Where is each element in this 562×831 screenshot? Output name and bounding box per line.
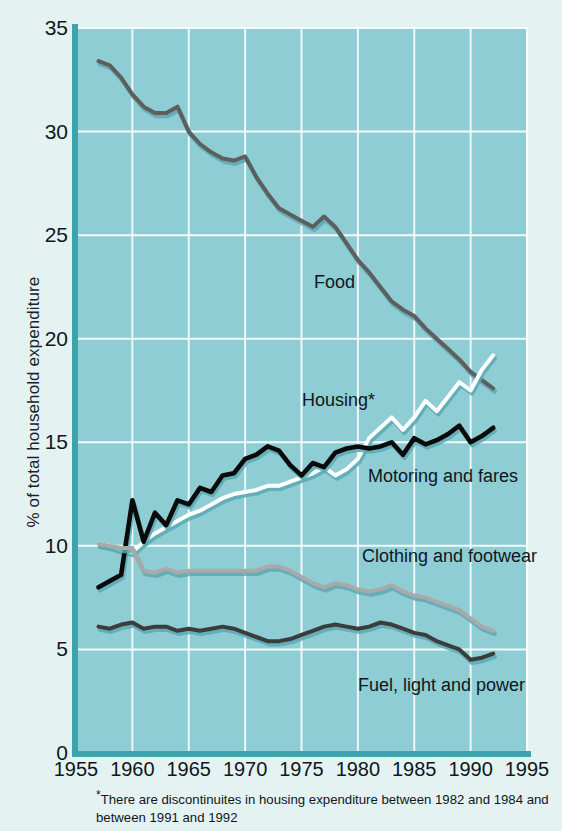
series-shadow-1 [100, 358, 495, 555]
x-tick-label: 1990 [441, 758, 501, 781]
chart-footnote: *There are discontinuites in housing exp… [96, 787, 556, 827]
series-label: Housing* [302, 390, 375, 411]
x-tick-label: 1965 [159, 758, 219, 781]
chart-canvas [0, 0, 562, 831]
x-tick-label: 1995 [497, 758, 557, 781]
x-tick-label: 1975 [272, 758, 332, 781]
x-tick-label: 1960 [102, 758, 162, 781]
y-tick-label: 35 [28, 17, 68, 38]
series-shadow-4 [100, 626, 495, 663]
x-tick-label: 1985 [384, 758, 444, 781]
y-axis-title: % of total household expenditure [24, 142, 44, 662]
chart-figure: 05101520253035 1955196019651970197519801… [0, 0, 562, 831]
x-tick-label: 1980 [328, 758, 388, 781]
x-axis-line [72, 751, 531, 757]
y-tick-label: 30 [28, 121, 68, 142]
series-line-housing [99, 355, 494, 552]
series-label: Fuel, light and power [358, 675, 525, 696]
series-label: Motoring and fares [368, 466, 518, 487]
y-axis-line [72, 24, 78, 757]
series-layer [99, 61, 495, 663]
series-label: Food [314, 272, 355, 293]
series-label: Clothing and footwear [362, 546, 537, 567]
footnote-text: There are discontinuites in housing expe… [96, 792, 549, 825]
x-tick-label: 1955 [46, 758, 106, 781]
x-tick-label: 1970 [215, 758, 275, 781]
